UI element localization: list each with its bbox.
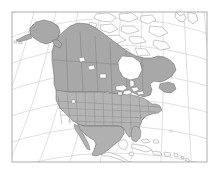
north-america-map — [0, 0, 222, 178]
atlantic-islet — [170, 130, 172, 132]
map-figure — [0, 0, 222, 178]
hudson-bay-james — [130, 80, 134, 87]
great-salt-lake — [72, 100, 75, 103]
